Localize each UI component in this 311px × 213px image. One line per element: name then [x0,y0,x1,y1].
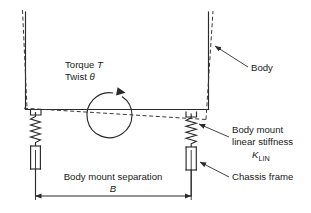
torque-arrowhead [116,87,126,95]
torque-label-text: Torque [65,59,94,70]
torque-twist-label: Torque T Twist θ [65,59,104,82]
twist-symbol: θ [90,71,96,82]
schematic-canvas: Torque T Twist θ Body Body mount linear … [0,0,311,213]
body-mount-label-line2: linear stiffness [232,136,293,147]
chassis-frame-label: Chassis frame [232,171,293,182]
stiffness-symbol-label: KLIN [252,149,270,163]
svg-text:Torque T: Torque T [65,59,104,70]
separation-label: Body mount separation [64,171,163,182]
body-mount-stiffness-callout: Body mount linear stiffness KLIN [199,124,293,163]
deformed-body-outline [23,10,214,120]
torque-symbol: T [97,59,104,70]
separation-symbol: B [110,183,117,194]
body-label: Body [251,62,273,73]
chassis-frame-leader-line [200,162,229,177]
diagram-root: Torque T Twist θ Body Body mount linear … [0,0,311,213]
body-leader-line [215,46,248,67]
svg-text:Twist θ: Twist θ [65,71,96,82]
chassis-frame-callout: Chassis frame [200,162,293,182]
body-callout: Body [215,46,273,73]
body-mount-label-line1: Body mount [232,124,284,135]
twist-label-text: Twist [65,71,87,82]
body-mount-leader-line [199,124,229,137]
separation-dimension: Body mount separation B [36,150,192,200]
stiffness-subscript: LIN [258,154,269,163]
